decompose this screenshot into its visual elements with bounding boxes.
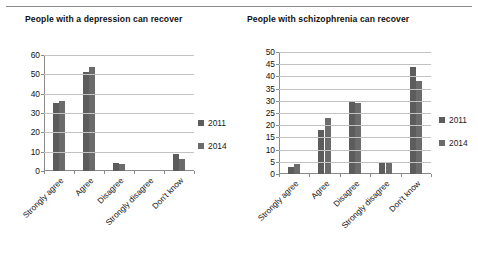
y-axis-tick-mark	[276, 125, 279, 126]
legend-item: 2011	[439, 115, 468, 125]
x-axis-category-label: Agree	[309, 179, 331, 201]
chart-legend-depression: 20112014	[198, 118, 227, 164]
x-axis-category-label: Don't know	[387, 179, 422, 214]
x-axis-category-label: Agree	[74, 176, 96, 198]
bar	[173, 154, 179, 171]
bar	[179, 159, 185, 171]
y-axis-tick-mark	[276, 137, 279, 138]
grid-line	[279, 76, 431, 77]
x-axis-tick-mark	[370, 174, 371, 177]
x-axis-category-label: Strongly agree	[257, 179, 301, 223]
grid-line	[279, 101, 431, 102]
y-axis-tick-label: 40	[31, 89, 40, 99]
y-axis-tick-label: 30	[266, 96, 275, 106]
legend-swatch-icon	[439, 117, 445, 123]
y-axis-tick-label: 30	[31, 108, 40, 118]
x-axis-category-label: Disagree	[332, 179, 362, 209]
y-axis-tick-mark	[41, 74, 44, 75]
legend-label: 2011	[449, 115, 467, 125]
grid-line	[279, 113, 431, 114]
grid-line	[279, 64, 431, 65]
legend-swatch-icon	[439, 140, 445, 146]
x-axis-labels: Strongly agreeAgreeDisagreeStrongly disa…	[44, 171, 194, 231]
y-axis-tick-mark	[276, 89, 279, 90]
legend-item: 2014	[198, 141, 227, 151]
x-axis-category-label: Don't know	[151, 176, 186, 211]
y-axis-tick-mark	[276, 101, 279, 102]
legend-swatch-icon	[198, 120, 204, 126]
y-axis-tick-label: 15	[266, 132, 275, 142]
plot-area-depression: Strongly agreeAgreeDisagreeStrongly disa…	[44, 55, 194, 171]
bar	[379, 162, 385, 174]
y-axis-tick-mark	[41, 132, 44, 133]
bar	[119, 164, 125, 171]
grid-line	[44, 113, 194, 114]
chart-title-schizophrenia: People with schizophrenia can recover	[247, 14, 437, 25]
grid-line	[279, 162, 431, 163]
y-axis-tick-mark	[41, 94, 44, 95]
y-axis-tick-label: 20	[31, 127, 40, 137]
grid-line	[279, 150, 431, 151]
y-axis-tick-label: 50	[266, 47, 275, 57]
chart-title-depression: People with a depression can recover	[25, 14, 210, 25]
chart-panel-schizophrenia: People with schizophrenia can recover St…	[239, 10, 478, 259]
legend-swatch-icon	[198, 143, 204, 149]
x-axis-tick-mark	[44, 171, 45, 174]
x-axis-tick-mark	[279, 174, 280, 177]
legend-label: 2014	[208, 141, 227, 151]
top-divider	[6, 6, 472, 7]
legend-label: 2011	[208, 118, 226, 128]
y-axis-tick-label: 10	[266, 145, 275, 155]
charts-container: People with a depression can recover Str…	[0, 10, 478, 259]
bar	[386, 162, 392, 174]
y-axis-tick-mark	[276, 52, 279, 53]
x-axis-tick-mark	[340, 174, 341, 177]
bar	[89, 67, 95, 171]
grid-line	[279, 52, 431, 53]
x-axis-tick-mark	[104, 171, 105, 174]
y-axis-tick-label: 45	[266, 59, 275, 69]
x-axis-tick-mark	[74, 171, 75, 174]
grid-line	[279, 137, 431, 138]
bar	[288, 167, 294, 174]
x-axis-tick-mark	[431, 174, 432, 177]
x-axis-tick-mark	[309, 174, 310, 177]
x-axis-category-label: Strongly agree	[21, 176, 65, 220]
y-axis-tick-label: 0	[270, 169, 275, 179]
bar	[325, 118, 331, 174]
y-axis-tick-label: 20	[266, 120, 275, 130]
y-axis-tick-mark	[41, 55, 44, 56]
x-axis-labels: Strongly agreeAgreeDisagreeStrongly disa…	[279, 174, 431, 234]
legend-label: 2014	[449, 138, 468, 148]
bar	[410, 67, 416, 174]
grid-line	[44, 55, 194, 56]
bar	[83, 72, 89, 171]
y-axis-tick-label: 40	[266, 71, 275, 81]
y-axis-tick-label: 25	[266, 108, 275, 118]
y-axis-tick-mark	[276, 64, 279, 65]
grid-line	[279, 89, 431, 90]
y-axis-tick-mark	[276, 162, 279, 163]
y-axis-tick-label: 60	[31, 50, 40, 60]
y-axis-tick-label: 5	[270, 157, 275, 167]
grid-line	[44, 152, 194, 153]
y-axis-tick-mark	[41, 152, 44, 153]
y-axis-tick-label: 0	[35, 166, 40, 176]
y-axis-tick-label: 50	[31, 69, 40, 79]
chart-panel-depression: People with a depression can recover Str…	[0, 10, 239, 259]
grid-line	[279, 125, 431, 126]
bar	[113, 163, 119, 171]
y-axis-tick-label: 10	[31, 147, 40, 157]
y-axis-tick-label: 35	[266, 84, 275, 94]
y-axis-tick-mark	[276, 150, 279, 151]
legend-item: 2011	[198, 118, 227, 128]
y-axis-tick-mark	[41, 113, 44, 114]
x-axis-tick-mark	[194, 171, 195, 174]
x-axis-category-label: Disagree	[96, 176, 126, 206]
grid-line	[44, 74, 194, 75]
plot-area-schizophrenia: Strongly agreeAgreeDisagreeStrongly disa…	[279, 52, 431, 174]
bar	[294, 164, 300, 174]
x-axis-tick-mark	[164, 171, 165, 174]
legend-item: 2014	[439, 138, 468, 148]
x-axis-tick-mark	[134, 171, 135, 174]
